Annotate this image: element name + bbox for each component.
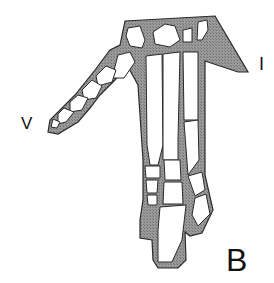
digit-v: [51, 52, 135, 128]
figure-canvas: V I B: [0, 0, 274, 283]
digit-label-v: V: [21, 115, 32, 132]
manus-illustration: [0, 0, 274, 283]
digit-label-i: I: [259, 55, 264, 73]
panel-label: B: [226, 244, 247, 276]
carpal-bone: [183, 28, 192, 42]
